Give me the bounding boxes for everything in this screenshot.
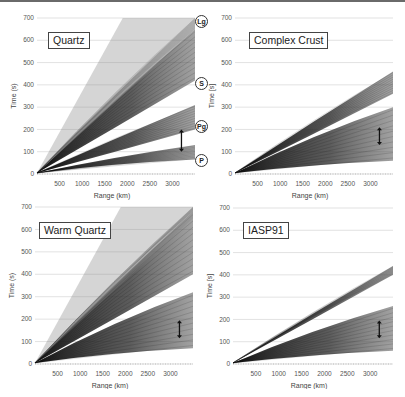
svg-text:600: 600 xyxy=(221,36,232,43)
svg-text:700: 700 xyxy=(221,14,232,21)
svg-text:100: 100 xyxy=(23,148,34,155)
svg-text:2500: 2500 xyxy=(341,180,356,187)
svg-text:500: 500 xyxy=(219,249,230,256)
svg-text:500: 500 xyxy=(52,370,63,377)
svg-text:2000: 2000 xyxy=(318,180,333,187)
svg-text:500: 500 xyxy=(21,248,32,255)
panel-warm-quartz: 0100200300400500600700500100015002000250… xyxy=(0,191,202,389)
svg-text:2000: 2000 xyxy=(120,180,135,187)
svg-text:100: 100 xyxy=(221,148,232,155)
svg-text:700: 700 xyxy=(23,14,34,21)
svg-text:300: 300 xyxy=(21,293,32,300)
svg-text:2500: 2500 xyxy=(143,180,158,187)
svg-text:3000: 3000 xyxy=(163,370,178,377)
svg-text:Range (km): Range (km) xyxy=(291,382,328,389)
svg-text:1500: 1500 xyxy=(95,370,110,377)
svg-text:1000: 1000 xyxy=(271,370,286,377)
svg-text:300: 300 xyxy=(221,103,232,110)
svg-text:Time (s): Time (s) xyxy=(10,83,18,108)
svg-text:500: 500 xyxy=(54,180,65,187)
phase-label-s: S xyxy=(195,77,208,90)
svg-text:300: 300 xyxy=(219,293,230,300)
panel-title-iasp91: IASP91 xyxy=(243,222,289,239)
svg-text:500: 500 xyxy=(23,59,34,66)
svg-text:600: 600 xyxy=(219,226,230,233)
svg-text:200: 200 xyxy=(219,316,230,323)
svg-text:500: 500 xyxy=(221,59,232,66)
svg-text:2500: 2500 xyxy=(141,370,156,377)
svg-text:0: 0 xyxy=(30,170,34,177)
phase-label-lg: Lg xyxy=(195,15,208,28)
panel-title-quartz: Quartz xyxy=(48,32,90,49)
panel-title-complex-crust: Complex Crust xyxy=(249,32,328,49)
svg-text:1500: 1500 xyxy=(97,180,112,187)
svg-text:700: 700 xyxy=(219,204,230,211)
svg-text:600: 600 xyxy=(23,36,34,43)
svg-text:600: 600 xyxy=(21,226,32,233)
chart-svg: 0100200300400500600700500100015002000250… xyxy=(0,191,202,389)
svg-text:Time [s]: Time [s] xyxy=(206,274,214,299)
svg-text:3000: 3000 xyxy=(363,370,378,377)
svg-text:0: 0 xyxy=(28,360,32,367)
svg-text:1000: 1000 xyxy=(75,180,90,187)
svg-text:1000: 1000 xyxy=(273,180,288,187)
svg-text:200: 200 xyxy=(23,126,34,133)
svg-text:500: 500 xyxy=(252,180,263,187)
chart-svg: 0100200300400500600700500100015002000250… xyxy=(0,2,202,200)
svg-text:400: 400 xyxy=(21,270,32,277)
svg-text:700: 700 xyxy=(21,203,32,210)
svg-text:500: 500 xyxy=(250,370,261,377)
panel-quartz: 0100200300400500600700500100015002000250… xyxy=(0,2,202,200)
chart-svg: 0100200300400500600700500100015002000250… xyxy=(200,191,402,389)
svg-text:Time [s]: Time [s] xyxy=(208,84,216,109)
svg-text:0: 0 xyxy=(226,360,230,367)
svg-text:300: 300 xyxy=(23,103,34,110)
svg-text:200: 200 xyxy=(21,315,32,322)
svg-text:100: 100 xyxy=(219,338,230,345)
svg-text:2000: 2000 xyxy=(118,370,133,377)
svg-text:2000: 2000 xyxy=(317,370,332,377)
svg-text:400: 400 xyxy=(221,81,232,88)
svg-text:1000: 1000 xyxy=(73,370,88,377)
svg-text:Range (km): Range (km) xyxy=(92,382,129,389)
svg-text:3000: 3000 xyxy=(165,180,180,187)
svg-text:400: 400 xyxy=(219,271,230,278)
svg-text:200: 200 xyxy=(221,126,232,133)
svg-text:Time (s): Time (s) xyxy=(8,273,16,298)
svg-text:1500: 1500 xyxy=(295,180,310,187)
svg-text:100: 100 xyxy=(21,338,32,345)
svg-text:2500: 2500 xyxy=(340,370,355,377)
phase-label-p: P xyxy=(195,154,208,167)
svg-text:3000: 3000 xyxy=(363,180,378,187)
phase-label-pg: Pg xyxy=(195,120,208,133)
svg-text:1500: 1500 xyxy=(294,370,309,377)
panel-title-warm-quartz: Warm Quartz xyxy=(39,222,111,239)
svg-text:0: 0 xyxy=(228,170,232,177)
svg-text:400: 400 xyxy=(23,81,34,88)
panel-iasp91: 0100200300400500600700500100015002000250… xyxy=(200,191,402,389)
